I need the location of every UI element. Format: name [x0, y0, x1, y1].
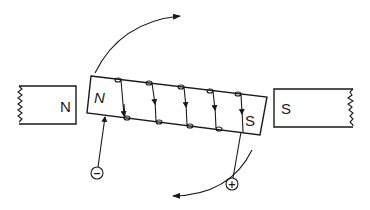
rotation-arrow-top-icon	[95, 16, 180, 73]
coil-turn-2	[146, 81, 162, 124]
coil-turn-4	[207, 89, 222, 131]
armature: N S	[87, 76, 267, 135]
negative-terminal-symbol: −	[93, 168, 101, 179]
left-pole-label: N	[60, 98, 71, 115]
left-magnet-pole: N	[18, 86, 76, 124]
positive-terminal-symbol: +	[228, 179, 236, 190]
break-line-left	[18, 86, 22, 122]
positive-lead: +	[226, 132, 241, 190]
armature-n-label: N	[94, 89, 105, 106]
coil-turn-5	[235, 92, 243, 132]
negative-lead: −	[91, 117, 105, 179]
coil-turn-1	[115, 78, 130, 120]
break-line-right	[348, 89, 353, 126]
right-pole-label: S	[281, 100, 291, 117]
rotation-arrow-bottom-icon	[173, 150, 252, 196]
armature-s-label: S	[245, 112, 255, 129]
right-magnet-pole: S	[274, 89, 353, 127]
coil-turn-3	[178, 85, 193, 128]
motor-diagram: N S N S	[0, 0, 370, 210]
